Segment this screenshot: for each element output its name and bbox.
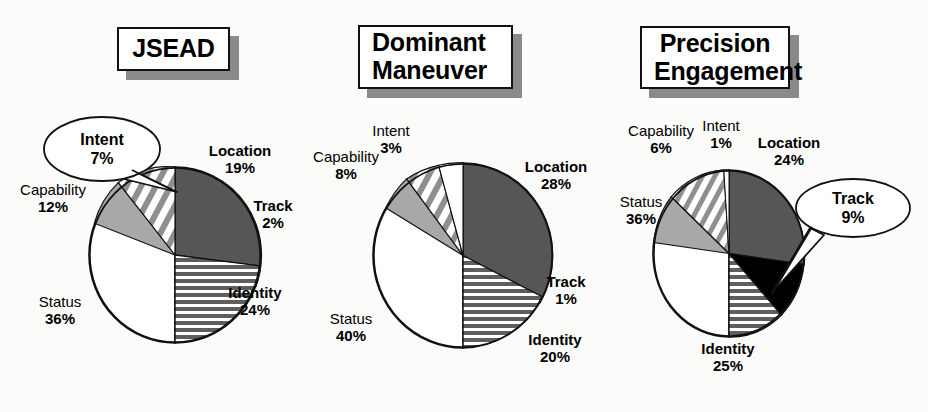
label-capability: Capability 12%: [6, 181, 100, 215]
title-line: JSEAD: [131, 34, 216, 62]
callout-text: Intent 7%: [50, 130, 154, 168]
callout-pct: 7%: [50, 149, 154, 168]
label-identity-pct: 24%: [213, 301, 297, 318]
label-status-pct: 40%: [315, 327, 387, 344]
label-capability-pct: 8%: [300, 165, 392, 182]
label-identity-name: Identity: [513, 331, 597, 348]
callout-track: Track 9%: [768, 175, 928, 300]
chart-title-plaque: JSEAD: [117, 27, 230, 71]
label-track-name: Track: [534, 273, 598, 290]
label-intent-name: Intent: [693, 117, 749, 134]
label-location: Location 19%: [192, 142, 288, 176]
label-capability-name: Capability: [6, 181, 100, 198]
chart-title-plaque: Precision Engagement: [640, 26, 790, 89]
label-location-name: Location: [747, 134, 831, 151]
title-box: JSEAD: [117, 27, 230, 71]
label-status-pct: 36%: [24, 310, 96, 327]
label-identity: Identity 20%: [513, 331, 597, 365]
callout-name: Track: [801, 189, 905, 208]
label-intent-pct: 1%: [693, 134, 749, 151]
label-status-pct: 36%: [605, 210, 677, 227]
label-location-pct: 24%: [747, 151, 831, 168]
title-line: Engagement: [654, 57, 776, 85]
label-location-name: Location: [509, 158, 603, 175]
callout-text: Track 9%: [801, 189, 905, 227]
title-box: Precision Engagement: [640, 26, 790, 89]
title-line: Dominant: [372, 28, 499, 56]
label-intent: Intent 1%: [693, 117, 749, 151]
title-line: Precision: [654, 29, 776, 57]
label-track-name: Track: [242, 197, 304, 214]
label-status: Status 40%: [315, 310, 387, 344]
label-capability-pct: 12%: [6, 198, 100, 215]
label-status-name: Status: [605, 193, 677, 210]
label-track: Track 1%: [534, 273, 598, 307]
chart-panel-jsead: JSEAD: [0, 0, 310, 412]
label-capability-name: Capability: [300, 148, 392, 165]
label-track-pct: 2%: [242, 214, 304, 231]
title-line: Maneuver: [372, 56, 499, 84]
chart-panel-dominant-maneuver: Dominant Maneuver Inte: [310, 0, 620, 412]
chart-title-plaque: Dominant Maneuver: [358, 25, 513, 89]
label-identity-name: Identity: [686, 340, 770, 357]
label-location-name: Location: [192, 142, 288, 159]
label-track: Track 2%: [242, 197, 304, 231]
label-status: Status 36%: [605, 193, 677, 227]
label-location-pct: 28%: [509, 175, 603, 192]
callout-pct: 9%: [801, 208, 905, 227]
label-status: Status 36%: [24, 293, 96, 327]
label-identity: Identity 25%: [686, 340, 770, 374]
label-identity-pct: 25%: [686, 357, 770, 374]
title-box: Dominant Maneuver: [358, 25, 513, 89]
label-identity-pct: 20%: [513, 348, 597, 365]
label-identity-name: Identity: [213, 284, 297, 301]
label-location: Location 24%: [747, 134, 831, 168]
label-intent-name: Intent: [356, 122, 426, 139]
label-capability: Capability 8%: [300, 148, 392, 182]
callout-name: Intent: [50, 130, 154, 149]
label-location-pct: 19%: [192, 159, 288, 176]
label-identity: Identity 24%: [213, 284, 297, 318]
label-track-pct: 1%: [534, 290, 598, 307]
label-status-name: Status: [315, 310, 387, 327]
chart-panel-precision-engagement: Precision Engagement: [618, 0, 928, 412]
label-location: Location 28%: [509, 158, 603, 192]
label-status-name: Status: [24, 293, 96, 310]
